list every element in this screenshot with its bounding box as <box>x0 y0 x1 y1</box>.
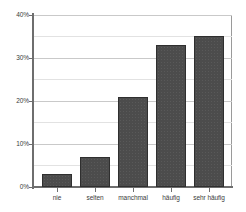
x-tick-label-nie: nie <box>53 194 62 202</box>
y-tick-mark-0 <box>29 187 33 188</box>
bar-manchmal[interactable] <box>118 97 148 187</box>
x-tick-mark-haeufig <box>171 188 172 192</box>
x-tick-mark-sehr-haeufig <box>209 188 210 192</box>
y-tick-label-10: 10% <box>16 140 29 147</box>
x-tick-mark-nie <box>57 188 58 192</box>
x-tick-label-sehr-haeufig: sehr häufig <box>193 194 225 202</box>
x-tick-label-selten: selten <box>86 194 103 202</box>
y-tick-label-20: 20% <box>16 97 29 104</box>
bar-series <box>33 15 232 187</box>
x-tick-mark-manchmal <box>133 188 134 192</box>
y-axis-tick-labels: 40% 30% 20% 10% 0% <box>0 0 29 212</box>
bar-selten[interactable] <box>80 157 110 187</box>
x-tick-label-manchmal: manchmal <box>118 194 148 202</box>
bar-chart-figure: 40% 30% 20% 10% 0% nie selten <box>0 0 246 212</box>
y-tick-label-40: 40% <box>16 11 29 18</box>
x-tick-label-haeufig: häufig <box>162 194 179 202</box>
y-tick-label-0: 0% <box>20 183 29 190</box>
x-tick-mark-selten <box>95 188 96 192</box>
bar-haeufig[interactable] <box>156 45 186 187</box>
bar-nie[interactable] <box>42 174 72 187</box>
y-tick-label-30: 30% <box>16 54 29 61</box>
bar-sehr-haeufig[interactable] <box>194 36 224 187</box>
